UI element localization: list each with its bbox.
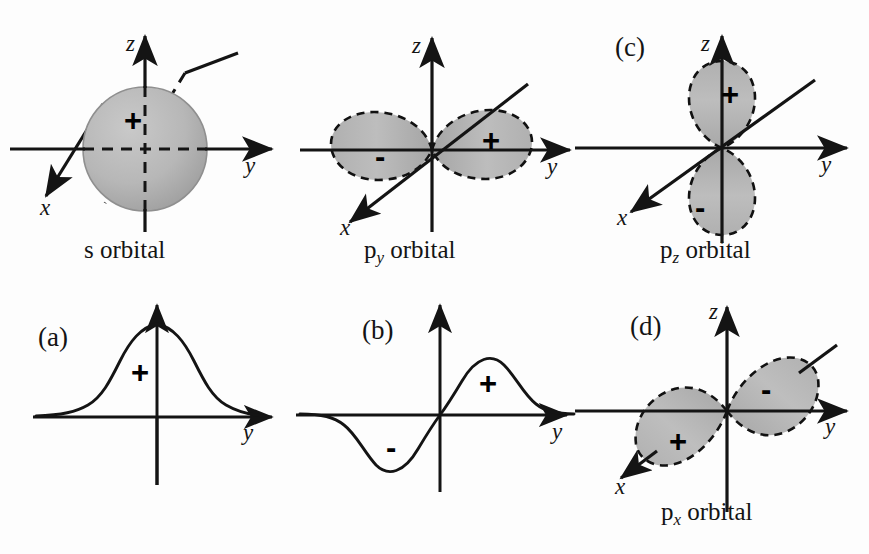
axis-x-line-far [799,345,837,373]
axis-label-y: y [245,154,255,177]
orbital-figure: z y x + s orbital [0,0,869,554]
caption-py-orbital: py orbital [364,237,456,266]
panel-letter-a: (a) [38,324,68,351]
sign-plus-lobe: + [482,125,500,156]
caption-s-orbital: s orbital [84,237,165,262]
sign-plus-curve: + [479,368,497,399]
axis-label-x: x [617,206,627,229]
caption-px-orbital: px orbital [661,499,753,528]
axis-label-z: z [126,32,135,55]
panel-px-orbital: (d) z y x - + px orbital [575,277,869,554]
sign-plus-lobe: + [721,79,739,110]
panel-s-wavefunction-plot: (a) y + [0,277,290,554]
gaussian-curve [36,324,264,416]
axis-label-y: y [552,420,562,443]
sign-minus-lobe: - [695,192,705,223]
sign-minus-lobe: - [761,374,771,405]
panel-letter-b: (b) [362,317,393,344]
sign-minus-curve: - [386,432,396,463]
panel-py-orbital: z y x - + py orbital [282,0,582,275]
sign-minus-lobe: - [375,141,385,172]
axis-label-y: y [821,153,831,176]
axis-label-x: x [340,216,350,239]
panel-letter-c: (c) [615,34,645,61]
axis-label-x: x [40,196,50,219]
caption-subscript: x [674,510,682,529]
sign-plus-curve: + [131,357,149,388]
axis-label-y: y [825,415,835,438]
axis-label-z: z [412,34,421,57]
axis-label-y: y [547,155,557,178]
caption-pz-orbital: pz orbital [660,237,751,266]
axis-label-z: z [701,32,710,55]
caption-subscript: y [377,248,385,267]
panel-p-wavefunction-plot: (b) y - + [282,277,582,554]
sign-plus-sphere: + [124,105,142,136]
axis-label-z: z [709,300,718,323]
caption-subscript: z [673,248,680,267]
scan-artifact [800,520,811,546]
axis-x-line-far [185,53,238,73]
sign-plus-lobe: + [669,426,687,457]
axis-label-x: x [615,475,625,498]
panel-letter-d: (d) [630,313,661,340]
axis-label-y: y [243,421,253,444]
panel-s-orbital: z y x + s orbital [0,0,290,275]
panel-pz-orbital: (c) z y x + - pz orbital [575,0,869,275]
